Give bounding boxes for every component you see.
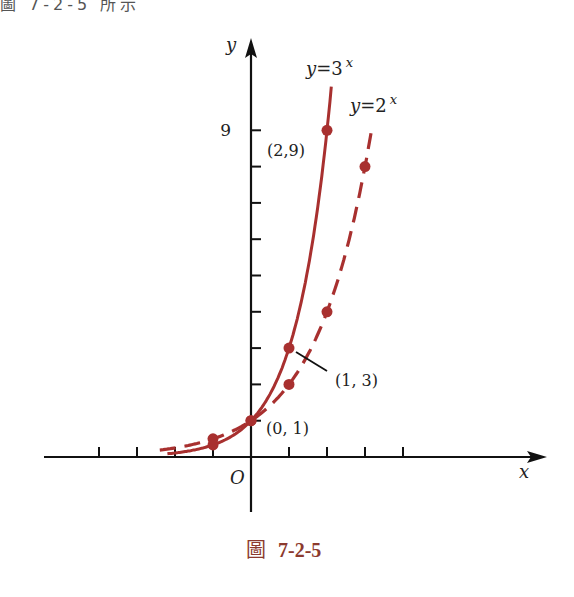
- data-point: [246, 415, 257, 426]
- exponential-chart: 9yxOy=3xy=2x(2,9)(1, 3)(0, 1): [0, 0, 574, 597]
- annotation-leader-line: [296, 352, 327, 371]
- caption-prefix: 圖: [246, 538, 266, 562]
- data-point: [284, 343, 295, 354]
- annotation-point-0-1: (0, 1): [266, 419, 309, 438]
- data-point: [208, 433, 219, 444]
- y-axis-label: y: [225, 34, 237, 55]
- figure-caption: 圖7-2-5: [246, 534, 321, 563]
- label-y-3-pow-x: y=3x: [305, 55, 354, 79]
- data-point: [284, 379, 295, 390]
- label-y-2-pow-x: y=2x: [349, 92, 398, 116]
- data-point: [360, 161, 371, 172]
- x-axis-label: x: [519, 461, 529, 482]
- curve-y-3-pow-x: [167, 87, 331, 454]
- data-point: [322, 125, 333, 136]
- annotation-point-2-9: (2,9): [267, 141, 305, 160]
- origin-label: O: [230, 467, 245, 488]
- data-point: [322, 306, 333, 317]
- caption-number: 7-2-5: [278, 539, 321, 561]
- annotation-point-1-3: (1, 3): [335, 371, 378, 390]
- y-tick-label: 9: [220, 120, 231, 140]
